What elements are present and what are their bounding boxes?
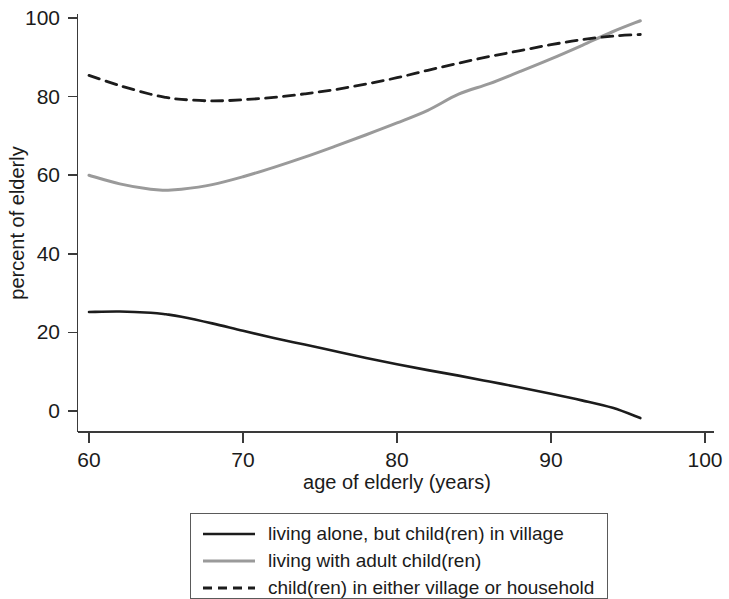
- legend-label: living alone, but child(ren) in village: [268, 523, 564, 544]
- legend-label: child(ren) in either village or househol…: [268, 577, 594, 598]
- x-tick-label: 90: [539, 448, 562, 471]
- x-tick-label: 100: [687, 448, 722, 471]
- x-axis-title: age of elderly (years): [303, 471, 491, 493]
- y-tick-label: 100: [25, 6, 60, 29]
- y-tick-label: 0: [48, 399, 60, 422]
- x-tick-label: 80: [385, 448, 408, 471]
- y-tick-label: 60: [37, 163, 60, 186]
- y-tick-label: 80: [37, 85, 60, 108]
- y-tick-label: 20: [37, 320, 60, 343]
- legend-label: living with adult child(ren): [268, 550, 481, 571]
- x-tick-label: 70: [231, 448, 254, 471]
- y-tick-label: 40: [37, 242, 60, 265]
- y-axis-title: percent of elderly: [6, 146, 28, 299]
- x-tick-label: 60: [77, 448, 100, 471]
- chart-background: [0, 0, 729, 599]
- line-chart-figure: 020406080100 percent of elderly 60708090…: [0, 0, 729, 599]
- legend: living alone, but child(ren) in villagel…: [191, 514, 608, 599]
